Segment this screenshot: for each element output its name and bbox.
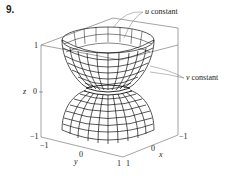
y-axis-label: y <box>74 158 78 166</box>
y-tick-0: 0 <box>79 151 83 159</box>
problem-number: 9. <box>6 5 14 15</box>
z-tick-1: 1 <box>34 42 38 50</box>
x-tick-neg1: −1 <box>179 133 188 141</box>
lower-dome <box>62 90 154 144</box>
y-tick-neg1: −1 <box>40 142 49 150</box>
z-axis-label: z <box>23 88 26 96</box>
x-tick-0: 0 <box>151 145 155 153</box>
bounding-box <box>39 18 178 157</box>
v-variable: v <box>186 73 190 82</box>
z-tick-0: 0 <box>33 88 37 96</box>
leader-lines <box>113 12 184 78</box>
v-constant-label: v constant <box>186 74 218 82</box>
u-constant-word: constant <box>151 7 178 16</box>
u-constant-label: u constant <box>145 8 178 16</box>
upper-bowl <box>62 27 154 90</box>
u-variable: u <box>145 7 149 16</box>
figure: 9. u constant v constant z 1 0 −1 −1 0 1… <box>0 0 236 176</box>
x-tick-1: 1 <box>126 160 130 168</box>
y-tick-1: 1 <box>117 160 121 168</box>
z-tick-neg1: −1 <box>30 133 39 141</box>
x-axis-label: x <box>159 151 163 159</box>
v-constant-word: constant <box>192 73 219 82</box>
